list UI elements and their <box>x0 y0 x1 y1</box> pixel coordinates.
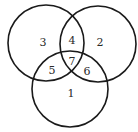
region-label-7: 7 <box>69 55 76 68</box>
region-label-4: 4 <box>69 34 76 47</box>
region-label-3: 3 <box>40 36 47 49</box>
region-label-5: 5 <box>49 64 56 77</box>
region-label-1: 1 <box>68 87 75 100</box>
venn-diagram: 1 2 3 4 5 6 7 <box>0 0 138 132</box>
region-label-6: 6 <box>84 65 91 78</box>
region-label-2: 2 <box>97 36 104 49</box>
